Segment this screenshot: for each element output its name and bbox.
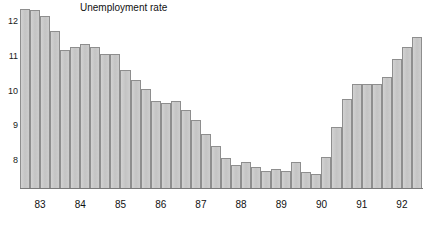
plot-area [20, 0, 422, 188]
x-tick-label: 91 [356, 199, 367, 210]
bar [171, 101, 181, 188]
y-tick-label: 10 [4, 86, 18, 95]
bar [412, 37, 422, 188]
bar [120, 70, 130, 188]
bar [211, 146, 221, 188]
x-tick-label: 92 [396, 199, 407, 210]
y-axis: 89101112 [0, 0, 18, 188]
bar [291, 162, 301, 188]
bar [311, 174, 321, 188]
x-tick-label: 86 [155, 199, 166, 210]
x-axis-baseline [20, 188, 423, 189]
bar [352, 84, 362, 188]
bar [241, 162, 251, 188]
bar [281, 171, 291, 188]
x-tick-label: 83 [35, 199, 46, 210]
bar [251, 167, 261, 188]
x-tick-label: 88 [236, 199, 247, 210]
bar [382, 77, 392, 188]
bar [110, 54, 120, 188]
y-tick-label: 8 [4, 156, 18, 165]
bar [30, 10, 40, 188]
bar [271, 169, 281, 188]
bar [392, 59, 402, 188]
bar [80, 44, 90, 188]
x-tick-label: 89 [276, 199, 287, 210]
bar [372, 84, 382, 188]
bar [221, 158, 231, 188]
bar [342, 99, 352, 188]
y-tick-label: 12 [4, 16, 18, 25]
y-tick-label: 11 [4, 51, 18, 60]
bar [131, 80, 141, 188]
bar [60, 50, 70, 188]
unemployment-rate-bar-chart: Unemployment rate 89101112 8384858687888… [0, 0, 428, 232]
bar [402, 47, 412, 188]
bar [151, 101, 161, 188]
bar [201, 134, 211, 188]
bar [362, 84, 372, 188]
bar [141, 89, 151, 188]
x-tick-label: 90 [316, 199, 327, 210]
bar [20, 9, 30, 188]
bar [331, 127, 341, 188]
x-tick-label: 84 [75, 199, 86, 210]
bar [321, 157, 331, 188]
x-tick-label: 85 [115, 199, 126, 210]
bar [181, 110, 191, 188]
bar [100, 54, 110, 188]
bar [301, 172, 311, 188]
bar-series [20, 0, 422, 188]
bar [231, 165, 241, 188]
bar [90, 47, 100, 188]
x-axis-labels: 83848586878889909192 [20, 192, 422, 216]
bar [261, 171, 271, 188]
bar [191, 120, 201, 188]
x-tick-label: 87 [195, 199, 206, 210]
bar [40, 16, 50, 188]
bar [161, 103, 171, 188]
bar [50, 31, 60, 188]
bar [70, 47, 80, 188]
y-tick-label: 9 [4, 121, 18, 130]
